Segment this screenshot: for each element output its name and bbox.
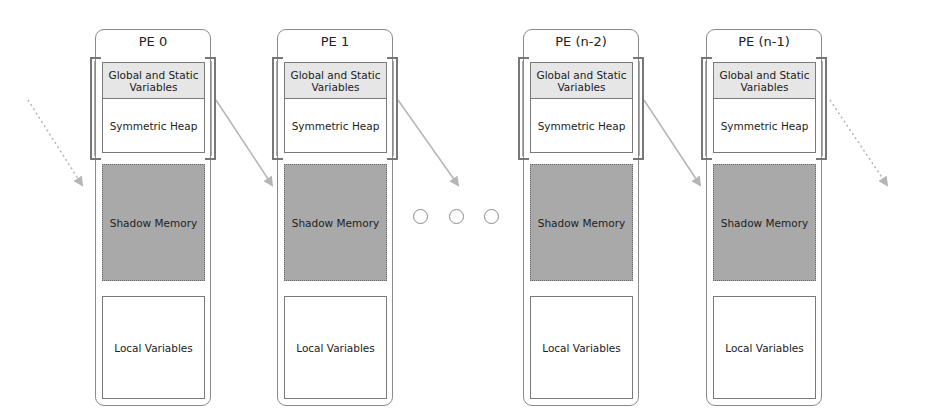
symmetric-heap-segment: Symmetric Heap — [713, 98, 816, 153]
pe-title: PE (n-2) — [524, 34, 638, 49]
ellipsis-dot-icon — [413, 209, 428, 224]
global-static-segment: Global and Static Variables — [713, 62, 816, 99]
pe-title: PE (n-1) — [707, 34, 821, 49]
global-static-segment: Global and Static Variables — [102, 62, 205, 99]
local-variables-segment: Local Variables — [102, 296, 205, 399]
ellipsis-dots — [412, 209, 512, 227]
global-static-segment: Global and Static Variables — [530, 62, 633, 99]
symmetric-heap-segment: Symmetric Heap — [284, 98, 387, 153]
global-static-segment: Global and Static Variables — [284, 62, 387, 99]
dotted-arrow-out — [830, 100, 887, 185]
dotted-arrow-in — [28, 100, 82, 185]
symmetric-heap-segment: Symmetric Heap — [102, 98, 205, 153]
arrow-pe0-to-pe1 — [216, 100, 272, 185]
ellipsis-dot-icon — [449, 209, 464, 224]
shadow-memory-segment: Shadow Memory — [284, 164, 387, 281]
local-variables-segment: Local Variables — [284, 296, 387, 399]
symmetric-heap-segment: Symmetric Heap — [530, 98, 633, 153]
local-variables-segment: Local Variables — [713, 296, 816, 399]
pe-n-1-memory: PE (n-1) Global and Static Variables Sym… — [706, 29, 822, 406]
pe-title: PE 1 — [278, 34, 392, 49]
shadow-memory-segment: Shadow Memory — [102, 164, 205, 281]
local-variables-segment: Local Variables — [530, 296, 633, 399]
arrow-pe1-to-next — [398, 100, 458, 185]
pe-n-2-memory: PE (n-2) Global and Static Variables Sym… — [523, 29, 639, 406]
arrow-pen2-to-pen1 — [644, 100, 700, 185]
shadow-memory-segment: Shadow Memory — [530, 164, 633, 281]
shadow-memory-segment: Shadow Memory — [713, 164, 816, 281]
pe-0-memory: PE 0 Global and Static Variables Symmetr… — [95, 29, 211, 406]
pe-title: PE 0 — [96, 34, 210, 49]
ellipsis-dot-icon — [484, 209, 499, 224]
pe-1-memory: PE 1 Global and Static Variables Symmetr… — [277, 29, 393, 406]
